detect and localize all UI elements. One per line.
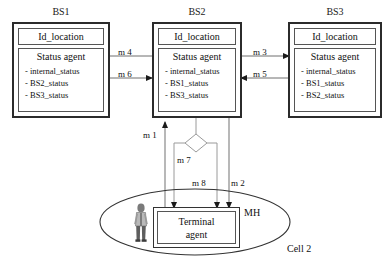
terminal-agent-line2: agent bbox=[186, 228, 208, 241]
bs3-status-agent-title: Status agent bbox=[295, 50, 375, 64]
label-m5: m 5 bbox=[253, 69, 267, 79]
terminal-agent-inner: Terminal agent bbox=[157, 211, 236, 244]
bs3-box: Id_location Status agent - internal_stat… bbox=[288, 22, 382, 118]
bs1-attr-0: - internal_status bbox=[19, 65, 103, 77]
label-m4: m 4 bbox=[118, 47, 132, 57]
bs1-status-agent-title: Status agent bbox=[19, 50, 103, 64]
terminal-agent-box: Terminal agent bbox=[153, 207, 240, 248]
bs2-id-location: Id_location bbox=[158, 28, 236, 45]
bs1-attr-1: - BS2_status bbox=[19, 77, 103, 89]
terminal-agent-line1: Terminal bbox=[179, 215, 215, 228]
bs2-status-agent-title: Status agent bbox=[159, 50, 235, 64]
mh-label: MH bbox=[244, 207, 260, 218]
bs1-id-location: Id_location bbox=[18, 28, 104, 45]
connector-m8 bbox=[207, 143, 217, 208]
connector-m7 bbox=[174, 143, 185, 208]
bs3-attr-1: - BS1_status bbox=[295, 77, 375, 89]
cell-label: Cell 2 bbox=[287, 243, 311, 254]
bs3-attr-2: - BS2_status bbox=[295, 89, 375, 101]
label-m7: m 7 bbox=[177, 155, 191, 165]
bs2-box: Id_location Status agent - internal_stat… bbox=[152, 22, 242, 118]
person-icon bbox=[130, 203, 152, 243]
bs1-box: Id_location Status agent - internal_stat… bbox=[12, 22, 110, 118]
label-m1: m 1 bbox=[143, 130, 157, 140]
bs1-title: BS1 bbox=[12, 6, 110, 17]
bs2-attr-1: - BS1_status bbox=[159, 77, 235, 89]
bs3-title: BS3 bbox=[288, 6, 382, 17]
label-m2: m 2 bbox=[231, 178, 245, 188]
bs3-status-agent: Status agent - internal_status - BS1_sta… bbox=[294, 48, 376, 112]
bs2-attr-2: - BS3_status bbox=[159, 89, 235, 101]
bs2-status-agent: Status agent - internal_status - BS1_sta… bbox=[158, 48, 236, 112]
diagram-canvas: BS1 Id_location Status agent - internal_… bbox=[0, 0, 391, 267]
bs2-attr-0: - internal_status bbox=[159, 65, 235, 77]
bs2-title: BS2 bbox=[152, 6, 242, 17]
bs1-attr-2: - BS3_status bbox=[19, 89, 103, 101]
bs3-attr-0: - internal_status bbox=[295, 65, 375, 77]
label-m6: m 6 bbox=[118, 69, 132, 79]
bs3-id-location: Id_location bbox=[294, 28, 376, 45]
split-diamond bbox=[185, 134, 207, 152]
bs1-status-agent: Status agent - internal_status - BS2_sta… bbox=[18, 48, 104, 112]
label-m3: m 3 bbox=[253, 47, 267, 57]
label-m8: m 8 bbox=[192, 178, 206, 188]
